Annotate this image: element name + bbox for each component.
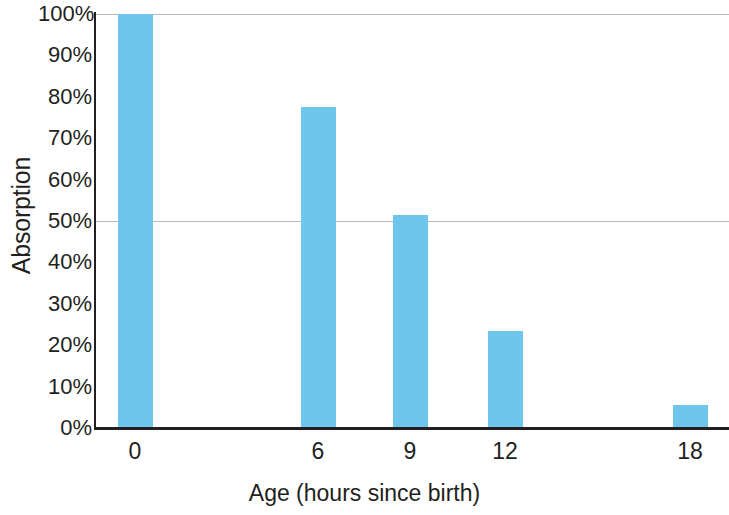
y-axis-title-label: Absorption — [8, 156, 37, 274]
y-axis-tick-label: 50% — [38, 210, 92, 232]
bar[interactable] — [393, 215, 428, 428]
y-axis-tick-label: 90% — [38, 44, 92, 66]
y-axis-line — [94, 12, 96, 430]
x-axis-title-label: Age (hours since birth) — [249, 480, 480, 506]
bar-chart: Absorption 100%90%80%70%60%50%40%30%20%1… — [0, 0, 729, 515]
y-axis-tick-label: 80% — [38, 86, 92, 108]
y-axis-tick-label: 20% — [38, 334, 92, 356]
x-axis-tick-label: 0 — [90, 436, 180, 466]
x-axis-tick-label: 6 — [273, 436, 363, 466]
bar[interactable] — [488, 331, 523, 428]
x-axis-line — [94, 427, 729, 430]
bar[interactable] — [118, 14, 153, 428]
bar[interactable] — [301, 107, 336, 428]
gridline — [96, 14, 729, 15]
y-axis-tick-label: 70% — [38, 127, 92, 149]
y-axis-tick-label: 100% — [38, 3, 92, 25]
x-axis-tick-labels: 0691218 — [96, 436, 729, 472]
y-axis-tick-label: 0% — [38, 417, 92, 439]
bar[interactable] — [673, 405, 708, 428]
y-axis-tick-label: 40% — [38, 251, 92, 273]
y-axis-tick-label: 30% — [38, 293, 92, 315]
x-axis-title: Age (hours since birth) — [0, 478, 729, 508]
y-axis-tick-label: 10% — [38, 376, 92, 398]
x-axis-tick-label: 9 — [365, 436, 455, 466]
x-axis-tick-label: 12 — [460, 436, 550, 466]
plot-area — [96, 14, 729, 428]
x-axis-tick-label: 18 — [645, 436, 729, 466]
y-axis-tick-label: 60% — [38, 169, 92, 191]
y-axis-tick-labels: 100%90%80%70%60%50%40%30%20%10%0% — [38, 0, 92, 440]
